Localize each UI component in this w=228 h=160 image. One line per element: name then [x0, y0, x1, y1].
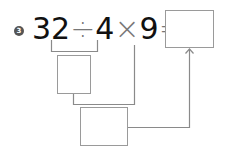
connector-to-answer: [128, 49, 190, 128]
bracket-32-div-4: [52, 40, 98, 52]
connector-to-9: [74, 45, 135, 105]
connector-lines: [0, 0, 228, 160]
